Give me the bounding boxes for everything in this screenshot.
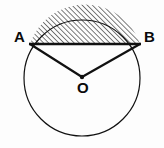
label-center-o: O xyxy=(77,79,89,96)
label-point-b: B xyxy=(144,28,155,45)
geometry-figure: A B O xyxy=(0,0,164,148)
label-point-a: A xyxy=(14,28,25,45)
circle-segment-diagram: A B O xyxy=(0,0,164,148)
